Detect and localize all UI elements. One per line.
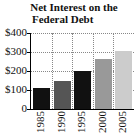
x-tick-label: 1985 [34,111,46,136]
vertical-gridline [72,33,73,109]
x-tick-label: 1990 [55,111,67,136]
vertical-gridline [52,33,53,109]
bar-1995 [74,71,91,109]
x-tick-label: 2000 [96,111,108,136]
y-tick-label: $200 [0,65,27,76]
y-tick [27,71,31,72]
y-tick-label: $100 [0,84,27,95]
vertical-gridline [113,33,114,109]
bar-1990 [54,81,71,110]
y-tick-label: $400 [0,27,27,38]
y-tick [27,33,31,34]
bar-2000 [95,59,112,109]
bar-2005 [115,51,132,109]
bar-1985 [33,88,50,109]
chart-title-line-2: Federal Debt [28,13,134,25]
y-tick [27,52,31,53]
chart-title-line-1: Net Interest on the [0,1,134,13]
x-tick-label: 1995 [75,111,87,136]
plot-area [30,33,134,110]
x-tick-label: 2005 [116,111,128,136]
y-tick [27,109,31,110]
y-tick-label: 0 [0,103,27,114]
gridline [31,33,134,34]
y-tick-label: $300 [0,46,27,57]
chart-title: Net Interest on the Federal Debt [0,1,134,25]
vertical-gridline [93,33,94,109]
y-tick [27,90,31,91]
